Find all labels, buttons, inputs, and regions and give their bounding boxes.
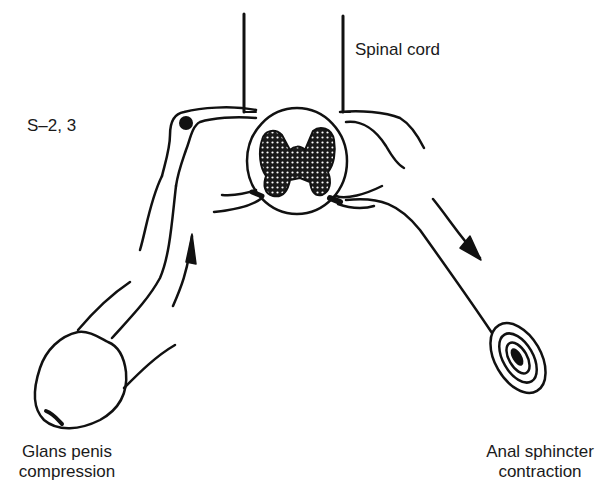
label-glans-line1: Glans penis <box>4 442 130 462</box>
label-sacral-segment: S–2, 3 <box>27 116 76 136</box>
label-glans-penis-compression: Glans penis compression <box>4 442 130 482</box>
right-dorsal-root <box>340 111 424 168</box>
gray-matter <box>260 128 335 196</box>
anal-sphincter <box>479 314 557 403</box>
left-dorsal-root <box>162 107 256 186</box>
left-ventral-root <box>214 190 262 212</box>
efferent-nerve <box>330 186 492 333</box>
efferent-arrow-icon <box>433 199 481 260</box>
spinal-cord-vertical-lines <box>244 14 350 112</box>
glans-penis <box>35 332 175 429</box>
label-anal-line2: contraction <box>470 462 610 482</box>
afferent-arrow-icon <box>173 234 196 306</box>
label-spinal-cord: Spinal cord <box>355 40 440 60</box>
afferent-nerve <box>78 176 176 338</box>
label-anal-line1: Anal sphincter <box>470 442 610 462</box>
label-anal-sphincter-contraction: Anal sphincter contraction <box>470 442 610 482</box>
label-glans-line2: compression <box>4 462 130 482</box>
ganglion-dot <box>179 116 193 130</box>
reflex-arc-diagram <box>0 0 615 495</box>
